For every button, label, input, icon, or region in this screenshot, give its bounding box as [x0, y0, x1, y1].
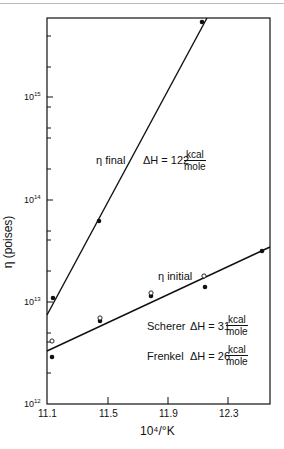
x-axis-title: 10⁴/°K [140, 424, 175, 438]
y-axis-title: η (poises) [1, 216, 15, 269]
frenkel-label: Frenkel [147, 350, 184, 362]
plot-area [0, 0, 284, 449]
frenkel-dh: ΔH = 26 [190, 350, 230, 362]
scherer-label: Scherer [147, 320, 186, 332]
ytick-1e15: 1015 [24, 91, 41, 102]
data-points-filled [50, 20, 265, 360]
y-ticks [47, 36, 53, 373]
initial-label: η initial [158, 270, 192, 282]
frenkel-unit: kcalmole [226, 344, 248, 367]
xtick-11.9: 11.9 [159, 408, 178, 419]
final-dh: ΔH = 122 [143, 154, 189, 166]
xtick-11.5: 11.5 [99, 408, 118, 419]
scherer-dh: ΔH = 31 [190, 320, 230, 332]
xtick-12.3: 12.3 [219, 408, 238, 419]
ytick-1e13: 1013 [24, 296, 41, 307]
final-label: η final [96, 154, 125, 166]
scherer-unit: kcalmole [226, 314, 248, 337]
x-ticks [108, 397, 228, 404]
final-unit: kcalmole [184, 149, 206, 172]
ytick-1e14: 1014 [24, 194, 41, 205]
data-points-open [50, 274, 206, 343]
xtick-11.1: 11.1 [38, 408, 57, 419]
